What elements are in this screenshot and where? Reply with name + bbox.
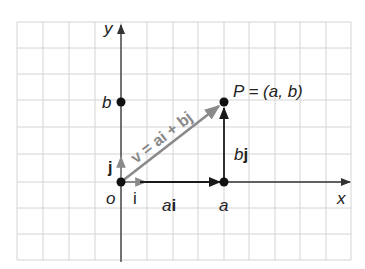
- vector-v-label: v = ai + bj: [127, 108, 195, 166]
- x-axis-label: x: [336, 189, 346, 208]
- vector-j-label: j: [107, 159, 112, 176]
- point-origin: [117, 178, 126, 187]
- origin-label: o: [106, 189, 115, 208]
- point-a-label: a: [219, 196, 228, 215]
- point-b-label: b: [102, 93, 111, 112]
- vector-bj-label: bj: [234, 145, 248, 164]
- vector-ai-label: ai: [162, 196, 176, 215]
- vector-i-label: i: [133, 189, 137, 208]
- vector-v: [121, 106, 219, 182]
- point-P-label: P = (a, b): [233, 82, 303, 101]
- point-P: [220, 98, 229, 107]
- vector-diagram: y x o b a P = (a, b) i j ai bj v = ai + …: [0, 0, 365, 269]
- grid: [17, 22, 351, 260]
- y-axis-label: y: [103, 19, 114, 38]
- point-b: [117, 98, 126, 107]
- point-a: [220, 178, 229, 187]
